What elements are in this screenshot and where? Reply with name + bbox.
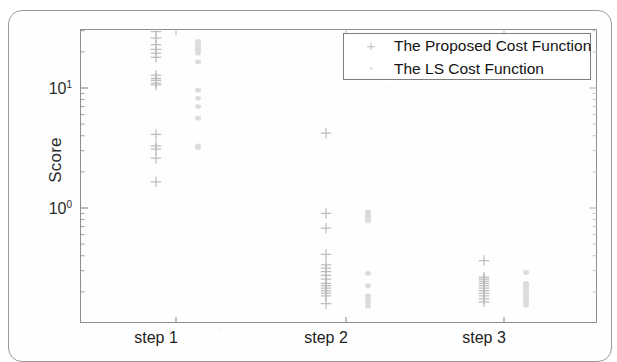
- dot-marker-icon: •: [348, 63, 394, 74]
- y-tick-label-10e1: 101: [0, 79, 72, 98]
- legend-item-ls: • The LS Cost Function: [344, 57, 590, 80]
- legend-label-proposed: The Proposed Cost Function: [394, 37, 591, 55]
- plus-marker-icon: +: [348, 38, 394, 53]
- x-tick-label-step-2: step 2: [266, 329, 386, 347]
- legend-item-proposed: + The Proposed Cost Function: [344, 34, 590, 57]
- y-tick-label-10e0: 100: [0, 199, 72, 218]
- x-tick-label-step-3: step 3: [424, 329, 544, 347]
- legend-box: + The Proposed Cost Function • The LS Co…: [343, 33, 591, 80]
- x-tick-label-step-1: step 1: [96, 329, 216, 347]
- legend-label-ls: The LS Cost Function: [394, 60, 544, 78]
